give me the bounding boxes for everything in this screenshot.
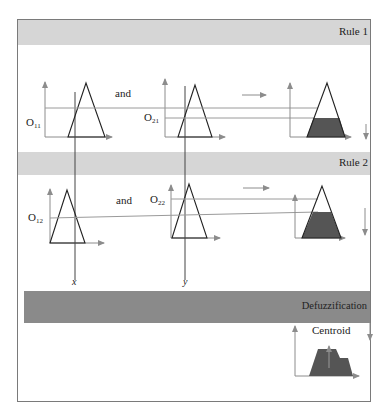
outer-frame — [18, 20, 371, 402]
o21-label: O21 — [144, 111, 159, 125]
o11-label: O11 — [26, 116, 41, 130]
defuzzification-label: Defuzzification — [302, 300, 367, 311]
centroid-label: Centroid — [312, 324, 351, 336]
o22-label: O22 — [150, 193, 165, 207]
rule2-plot-y — [171, 184, 220, 238]
rule1-band — [18, 20, 370, 45]
rule2-band — [18, 152, 370, 175]
rule2-plot-x — [50, 189, 104, 243]
rule2-o12-guide — [50, 212, 318, 218]
rule2-label: Rule 2 — [339, 156, 368, 168]
rule1-plot-x — [45, 82, 112, 137]
rule1-plot-output — [290, 83, 351, 137]
y-variable-label: y — [183, 276, 187, 287]
o12-label: O12 — [28, 211, 43, 225]
fuzzy-inference-diagram — [0, 0, 388, 414]
rule2-connector: and — [116, 194, 132, 206]
x-variable-label: x — [72, 276, 76, 287]
rule1-label: Rule 1 — [339, 25, 368, 37]
rule1-connector: and — [115, 87, 131, 99]
